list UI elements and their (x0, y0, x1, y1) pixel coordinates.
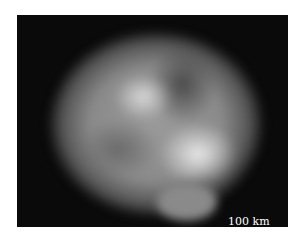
image-frame: 100 km (17, 15, 288, 227)
scale-label: 100 km (228, 215, 270, 227)
asteroid-lobe (157, 183, 217, 221)
asteroid (48, 29, 264, 219)
